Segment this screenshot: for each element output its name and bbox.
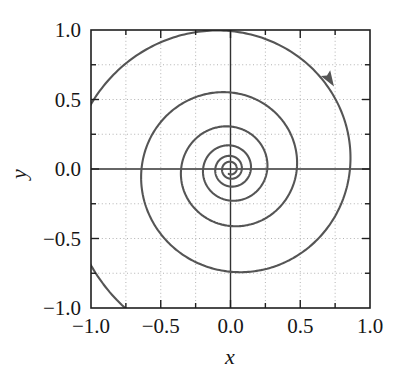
y-tick-label: 1.0 [55, 18, 81, 42]
x-tick-label: −0.5 [142, 314, 180, 338]
y-tick-label: 0.5 [55, 88, 81, 112]
y-tick-label: 0.0 [55, 157, 81, 181]
x-tick-label: 1.0 [357, 314, 383, 338]
y-tick-label: −0.5 [43, 227, 81, 251]
x-tick-label: 0.5 [287, 314, 313, 338]
plot-canvas: −1.0−0.50.00.51.0 1.00.50.0−0.5−1.0 x y [0, 0, 404, 374]
x-axis-title: x [224, 344, 235, 369]
y-tick-label: −1.0 [43, 296, 81, 320]
y-axis-title: y [6, 169, 31, 181]
phase-portrait-figure: −1.0−0.50.00.51.0 1.00.50.0−0.5−1.0 x y [0, 0, 404, 374]
x-tick-label: 0.0 [217, 314, 243, 338]
